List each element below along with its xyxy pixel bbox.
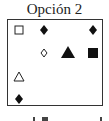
cropped-fragment xyxy=(33,117,35,121)
filled-diamond-icon xyxy=(39,25,49,35)
hollow-diamond-icon xyxy=(39,48,49,58)
filled-square-icon xyxy=(88,48,98,58)
hollow-square-icon xyxy=(14,25,24,35)
hollow-triangle-icon xyxy=(13,71,25,82)
filled-diamond-icon xyxy=(88,25,98,35)
cropped-fragment xyxy=(42,117,48,121)
filled-triangle-icon xyxy=(61,46,75,58)
cropped-fragment xyxy=(100,117,102,121)
filled-diamond-icon xyxy=(14,94,24,104)
option-title: Opción 2 xyxy=(0,0,109,18)
